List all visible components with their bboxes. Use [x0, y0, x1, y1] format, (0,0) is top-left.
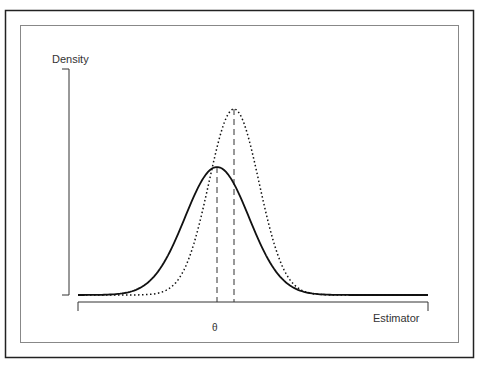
dotted-density-curve — [78, 109, 428, 295]
x-axis-bracket — [78, 302, 428, 311]
theta-tick-label: θ — [212, 322, 218, 333]
figure: Density θ Estimator — [0, 0, 481, 370]
x-axis-label: Estimator — [373, 312, 420, 324]
solid-density-curve — [78, 167, 428, 295]
y-axis-label: Density — [52, 53, 89, 65]
y-axis-bracket — [62, 69, 69, 295]
